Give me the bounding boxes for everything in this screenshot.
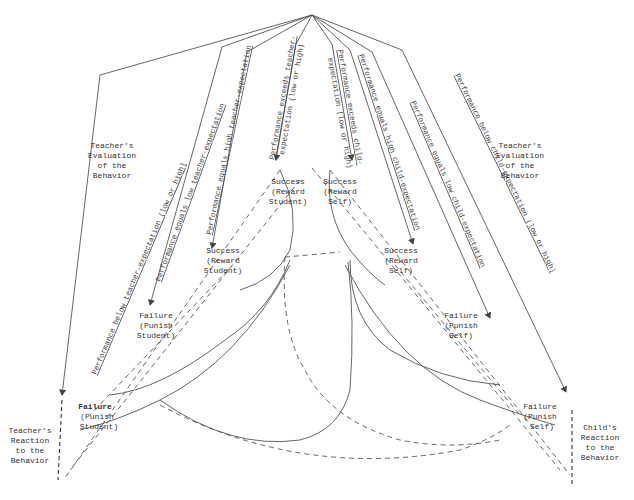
expectation-reaction-diagram: Performance below teacher-expectation (l…: [0, 0, 634, 500]
svg-text:Failure: Failure: [444, 311, 478, 320]
svg-text:Teacher's: Teacher's: [90, 141, 133, 150]
svg-text:(Punish: (Punish: [523, 412, 557, 421]
svg-text:Behavior: Behavior: [11, 456, 50, 465]
success-reward-student-top: Success (Reward Student): [269, 177, 307, 206]
svg-text:Behavior: Behavior: [93, 171, 132, 180]
failure-punish-student-low: Failure (Punish Student): [78, 402, 118, 431]
failure-punish-self-mid: Failure (Punish Self): [444, 311, 478, 340]
teacher-reaction-bar: [58, 400, 62, 480]
line-c-equals-high: [312, 15, 413, 244]
svg-text:of the: of the: [98, 161, 127, 170]
svg-text:(Punish: (Punish: [80, 412, 114, 421]
success-reward-self-top: Success (Reward Self): [323, 177, 357, 206]
svg-text:(Reward: (Reward: [271, 187, 305, 196]
teacher-reaction-label: Teacher's Reaction to the Behavior: [8, 426, 51, 465]
svg-text:Reaction: Reaction: [11, 436, 50, 445]
svg-text:Evaluation: Evaluation: [88, 151, 136, 160]
svg-text:Student): Student): [80, 422, 118, 431]
svg-text:Teacher's: Teacher's: [498, 141, 541, 150]
failure-punish-student-mid: Failure (Punish Student): [137, 311, 175, 340]
svg-text:Success: Success: [384, 246, 418, 255]
svg-text:Self): Self): [328, 197, 352, 206]
success-reward-self-mid: Success (Reward Self): [384, 246, 418, 275]
svg-text:to the: to the: [586, 443, 615, 452]
svg-text:Failure: Failure: [139, 311, 173, 320]
svg-text:Teacher's: Teacher's: [8, 426, 51, 435]
svg-text:of the: of the: [506, 161, 535, 170]
svg-text:Child's: Child's: [583, 423, 617, 432]
svg-text:(Punish: (Punish: [444, 321, 478, 330]
svg-text:Self): Self): [449, 331, 473, 340]
svg-text:Student): Student): [204, 266, 242, 275]
success-reward-student-mid: Success (Reward Student): [204, 246, 242, 275]
svg-text:Reaction: Reaction: [581, 433, 620, 442]
svg-text:Success: Success: [206, 246, 240, 255]
label-t-below: Performance below teacher-expectation (l…: [90, 161, 187, 375]
svg-text:(Punish: (Punish: [139, 321, 173, 330]
label-c-equals-low: Performance equals low child-expectation: [409, 100, 487, 269]
reaction-lines: [58, 168, 572, 485]
svg-text:Self): Self): [389, 266, 413, 275]
svg-text:Failure: Failure: [523, 402, 557, 411]
teacher-evaluation-label-left: Teacher's Evaluation of the Behavior: [88, 141, 136, 180]
svg-text:Student): Student): [137, 331, 175, 340]
svg-text:Failure: Failure: [78, 402, 112, 411]
svg-text:Success: Success: [271, 177, 305, 186]
svg-text:(Reward: (Reward: [384, 256, 418, 265]
svg-text:Self): Self): [530, 422, 554, 431]
svg-text:Behavior: Behavior: [581, 453, 620, 462]
failure-punish-self-low: Failure (Punish Self): [523, 402, 557, 431]
svg-text:Behavior: Behavior: [501, 171, 540, 180]
svg-text:(Reward: (Reward: [206, 256, 240, 265]
svg-text:Success: Success: [323, 177, 357, 186]
svg-text:to the: to the: [16, 446, 45, 455]
svg-text:Evaluation: Evaluation: [496, 151, 544, 160]
svg-text:Student): Student): [269, 197, 307, 206]
svg-text:(Reward: (Reward: [323, 187, 357, 196]
child-reaction-label: Child's Reaction to the Behavior: [581, 423, 620, 462]
